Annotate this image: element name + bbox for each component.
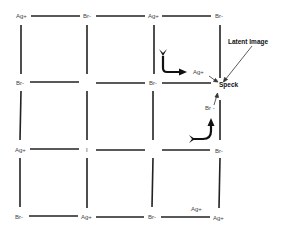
br-near-speck-label: Br - — [205, 105, 215, 111]
latent-image-label: Latent Image — [228, 39, 268, 46]
ion-label-r3c3: Ag+ — [213, 215, 224, 221]
br-migration-arrow — [189, 118, 215, 143]
ion-label-r1c2: Br- — [149, 80, 157, 86]
ion-label-r1c0: Br- — [16, 80, 24, 86]
ag-bottom-extra-label: Ag+ — [191, 206, 202, 212]
speck-arrows — [209, 46, 252, 105]
ion-label-r0c0: Ag+ — [16, 13, 27, 19]
lattice-diagram — [0, 0, 283, 232]
ion-label-r2c3: Br- — [215, 148, 223, 154]
ion-label-r3c1: Ag+ — [81, 214, 92, 220]
ion-label-r0c3: Br- — [215, 13, 223, 19]
speck-label: Speck — [219, 82, 238, 89]
ion-label-r3c0: Br- — [15, 214, 23, 220]
ion-label-r0c1: Br- — [83, 13, 91, 19]
interstitial-ag-label: Ag+ — [193, 69, 204, 75]
ion-label-r0c2: Ag+ — [148, 13, 159, 19]
ion-label-r3c2: Br- — [148, 214, 156, 220]
ion-label-r2c0: Ag+ — [15, 147, 26, 153]
ag-migration-arrow — [159, 49, 187, 76]
ion-label-r2c1: I — [86, 147, 88, 153]
lattice-lines — [20, 16, 220, 217]
